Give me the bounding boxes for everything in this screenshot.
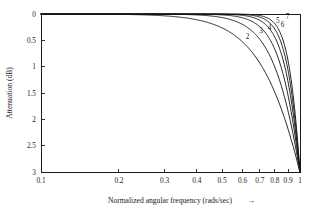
x-axis-title: Normalized angular frequency (rads/sec) xyxy=(108,196,233,205)
y-axis-title: Attenuation (dB) xyxy=(5,67,14,119)
y-tick-label: 0.5 xyxy=(27,36,36,45)
x-tick-label: 0.4 xyxy=(192,176,201,185)
x-tick-label: 0.8 xyxy=(270,176,279,185)
x-tick-label: 0.3 xyxy=(160,176,169,185)
curve-label-3: 3 xyxy=(259,27,263,35)
chart-canvas: 0.10.20.30.40.50.60.70.80.9100.511.522.5… xyxy=(0,0,320,211)
y-tick-label: 2 xyxy=(32,115,36,124)
curve-order-4 xyxy=(41,14,300,172)
filter-attenuation-figure: 0.10.20.30.40.50.60.70.80.9100.511.522.5… xyxy=(0,0,320,211)
plot-frame xyxy=(41,14,300,172)
y-tick-label: 1.5 xyxy=(27,89,36,98)
x-tick-label: 1 xyxy=(298,176,302,185)
x-tick-label: 0.6 xyxy=(238,176,247,185)
x-tick-label: 0.1 xyxy=(36,176,45,185)
curve-label-6: 6 xyxy=(281,21,285,29)
x-tick-label: 0.7 xyxy=(255,176,264,185)
curve-order-2 xyxy=(41,14,300,172)
curve-label-4: 4 xyxy=(268,24,272,32)
tick-labels: 0.10.20.30.40.50.60.70.80.9100.511.522.5… xyxy=(27,10,302,185)
curve-order-5 xyxy=(41,14,300,172)
y-tick-label: 0 xyxy=(32,10,36,19)
curve-order-3 xyxy=(41,14,300,172)
curve-label-7: 7 xyxy=(286,13,290,21)
curve-order-6 xyxy=(41,14,300,172)
curve-order-7 xyxy=(41,14,300,172)
y-tick-label: 1 xyxy=(32,62,36,71)
tick-marks xyxy=(41,40,288,172)
curve-label-5: 5 xyxy=(276,17,280,25)
x-axis-arrow-icon: → xyxy=(247,196,255,205)
y-tick-label: 2.5 xyxy=(27,141,36,150)
axes-frame xyxy=(41,14,300,172)
x-tick-label: 0.2 xyxy=(114,176,123,185)
y-tick-label: 3 xyxy=(32,168,36,177)
x-tick-label: 0.5 xyxy=(217,176,226,185)
curve-label-2: 2 xyxy=(246,33,250,41)
curve-series xyxy=(41,14,300,172)
x-tick-label: 0.9 xyxy=(284,176,293,185)
